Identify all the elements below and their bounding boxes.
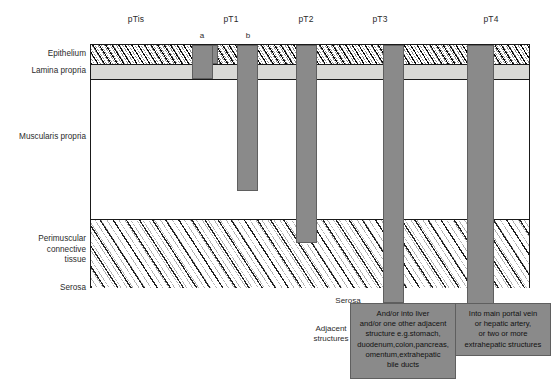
tissue-caption-muscularis-propria: Muscularis propria bbox=[19, 132, 86, 143]
substage-label-b: b bbox=[246, 31, 250, 40]
pt4-description-box: Into main portal vein or hepatic artery,… bbox=[455, 303, 551, 356]
substage-label-a: a bbox=[200, 31, 204, 40]
tumor-bar-pt4 bbox=[467, 45, 494, 310]
serosa-annotation: Serosa bbox=[335, 296, 360, 305]
tumor-bar-pt2 bbox=[296, 45, 317, 243]
stage-label-ptis: pTis bbox=[128, 14, 145, 24]
tumor-bar-pt1a bbox=[192, 45, 213, 79]
stage-label-pt4: pT4 bbox=[483, 14, 498, 24]
adjacent-structures-note: Adjacent structures bbox=[313, 324, 348, 344]
tissue-caption-epithelium: Epithelium bbox=[48, 49, 86, 60]
stage-label-pt1: pT1 bbox=[223, 14, 238, 24]
tumor-bar-pt3 bbox=[383, 45, 404, 303]
tissue-caption-perimuscular-tissue: Perimuscular connective tissue bbox=[38, 234, 86, 266]
tissue-caption-lamina-propria: Lamina propria bbox=[31, 66, 86, 77]
tumor-bar-pt1b bbox=[237, 45, 258, 191]
stage-label-pt3: pT3 bbox=[372, 14, 387, 24]
pt3-description-box: And/or into liver and/or one other adjac… bbox=[350, 303, 456, 379]
stage-label-pt2: pT2 bbox=[298, 14, 313, 24]
staging-diagram: pTis pT1 pT2 pT3 pT4 a b Epithelium Lami… bbox=[0, 0, 559, 392]
tissue-caption-serosa: Serosa bbox=[60, 283, 86, 294]
